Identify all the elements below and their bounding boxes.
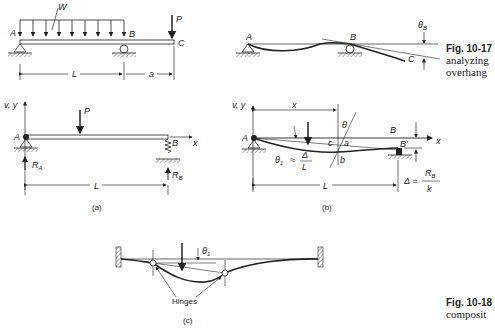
panel-c-fixed-beam-hinges: θ1 Hinges (c) Fig. 10-18 composit	[116, 243, 493, 325]
label-b: B	[129, 29, 135, 39]
label-distance-x: x	[291, 100, 297, 110]
label-span-l: L	[323, 181, 328, 191]
deflection-curve	[248, 43, 405, 61]
hinge-icon	[222, 270, 228, 276]
panel-b-label: (b)	[322, 203, 332, 212]
overhang-beam-deflected: A B C θB Fig. 10-17 analyzing overhang	[236, 20, 493, 78]
label-point-a: a	[344, 138, 349, 148]
roller-support-icon	[120, 45, 128, 53]
label-b-prime: B′	[400, 139, 408, 149]
fixed-wall-right-icon	[318, 247, 323, 267]
label-theta1: θ1	[275, 155, 283, 166]
roller-support-icon	[346, 45, 354, 53]
label-theta-b: θB	[418, 20, 427, 31]
label-a: A	[9, 28, 16, 38]
panel-c-label: (c)	[183, 316, 193, 325]
label-b: B	[390, 125, 396, 135]
label-p: P	[176, 14, 182, 24]
panel-a-label: (a)	[92, 203, 102, 212]
label-l-den: L	[302, 162, 307, 172]
label-overhang-a: a	[149, 69, 154, 79]
overhang-beam-loaded: W P A B C L a	[8, 2, 185, 80]
label-span-l: L	[94, 181, 99, 191]
pin-support-icon	[20, 139, 32, 147]
fig-10-17-caption-line1: analyzing	[446, 54, 489, 66]
label-a: A	[245, 32, 252, 42]
label-c: C	[408, 54, 415, 64]
label-ra: RA	[32, 160, 43, 171]
label-delta-eq: Δ =	[403, 176, 417, 186]
label-b: B	[172, 138, 178, 148]
label-x: x	[192, 138, 198, 148]
label-p: P	[84, 106, 90, 116]
diagram-canvas: W P A B C L a A	[0, 0, 495, 329]
fig-10-17-caption-line2: overhang	[446, 66, 487, 78]
label-c: C	[178, 38, 185, 48]
label-c: c	[328, 138, 333, 148]
beam	[25, 135, 168, 139]
label-delta-num: Δ	[301, 150, 308, 160]
label-hinges: Hinges	[172, 297, 197, 306]
fig-10-18-caption-line1: composit	[446, 308, 486, 320]
label-axes: v, y	[4, 100, 18, 110]
label-rb: RB	[425, 168, 436, 179]
label-span-l: L	[72, 69, 77, 79]
fig-10-17-number: Fig. 10-17	[446, 43, 493, 54]
label-axes: v, y	[232, 100, 246, 110]
pin-support-icon	[248, 140, 260, 148]
label-theta: θ	[342, 120, 347, 130]
beam	[20, 40, 174, 44]
pin-support-icon	[14, 44, 26, 52]
panel-b-deflection-geometry: v, y x x A θ1 ≈ Δ L θ c a b B B′	[232, 100, 441, 212]
hinge-icon	[150, 260, 156, 266]
panel-a-spring-beam: v, y x P A RA B RB L (a)	[4, 100, 198, 212]
spring-icon	[165, 139, 171, 153]
distributed-load-arrows	[20, 20, 124, 36]
label-b-point: b	[340, 155, 345, 165]
label-approx: ≈	[290, 155, 295, 165]
label-b: B	[350, 32, 356, 42]
fixed-wall-left-icon	[116, 247, 121, 267]
label-a: A	[13, 132, 20, 142]
label-k: k	[427, 184, 432, 194]
label-rb: RB	[172, 170, 183, 181]
label-a: A	[241, 133, 248, 143]
label-w: W	[58, 2, 68, 12]
fig-10-18-number: Fig. 10-18	[446, 297, 493, 308]
label-x: x	[435, 136, 441, 146]
deflection-curve	[253, 138, 398, 152]
label-theta1: θ1	[202, 246, 210, 257]
